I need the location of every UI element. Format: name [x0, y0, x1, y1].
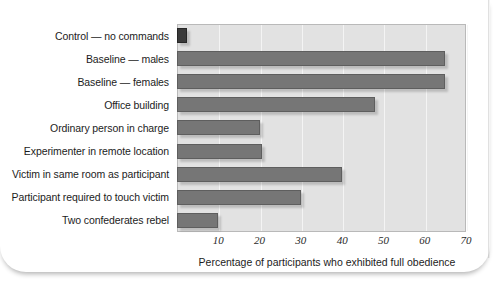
figure-card-right-edge — [488, 0, 490, 258]
bar-series — [177, 24, 466, 232]
chart-page: o pp g Control — no commandsBaseline — m… — [0, 0, 498, 289]
category-label: Office building — [0, 93, 173, 116]
bar-row — [177, 93, 466, 116]
bar-row — [177, 139, 466, 162]
category-label: Ordinary person in charge — [0, 116, 173, 139]
bar — [177, 120, 260, 135]
category-label: Two confederates rebel — [0, 209, 173, 232]
x-tick-40: 40 — [337, 234, 348, 246]
bar — [177, 97, 375, 112]
bar — [177, 144, 262, 159]
bar-row — [177, 47, 466, 70]
bar — [177, 74, 445, 89]
bar-row — [177, 163, 466, 186]
bar — [177, 190, 301, 205]
category-label: Baseline — females — [0, 70, 173, 93]
x-axis-tick-labels: 10203040506070 — [177, 234, 466, 250]
bar-row — [177, 70, 466, 93]
bar-row — [177, 24, 466, 47]
bar-row — [177, 186, 466, 209]
category-axis-labels: Control — no commandsBaseline — malesBas… — [0, 24, 173, 232]
category-label: Experimenter in remote location — [0, 139, 173, 162]
category-label: Control — no commands — [0, 24, 173, 47]
category-label: Baseline — males — [0, 47, 173, 70]
bar-row — [177, 209, 466, 232]
x-tick-60: 60 — [419, 234, 430, 246]
x-tick-20: 20 — [254, 234, 265, 246]
category-label: Participant required to touch victim — [0, 186, 173, 209]
bar-row — [177, 116, 466, 139]
category-label: Victim in same room as participant — [0, 163, 173, 186]
x-tick-10: 10 — [213, 234, 224, 246]
x-tick-30: 30 — [295, 234, 306, 246]
gridline-70 — [467, 25, 468, 231]
bar — [177, 28, 187, 43]
x-tick-70: 70 — [461, 234, 472, 246]
bar — [177, 51, 445, 66]
bar — [177, 213, 218, 228]
x-tick-50: 50 — [378, 234, 389, 246]
x-axis-title: Percentage of participants who exhibited… — [177, 256, 477, 268]
bar — [177, 167, 342, 182]
